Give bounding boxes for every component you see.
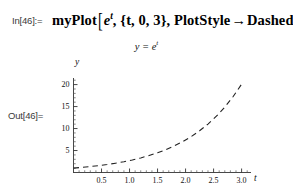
- range-spec: {t, 0, 3}: [120, 12, 166, 28]
- y-tick-label: 15: [62, 102, 70, 111]
- y-tick-label: 5: [66, 146, 70, 155]
- x-tick-label: 1.0: [125, 176, 135, 185]
- input-cell-label[interactable]: In[46]:=: [12, 15, 42, 26]
- x-axis-ticks: 0.51.01.52.02.53.0: [97, 169, 247, 185]
- rule-arrow-icon: →: [230, 12, 247, 28]
- exponential-curve: [74, 84, 242, 168]
- x-tick-label: 0.5: [97, 176, 107, 185]
- y-axis-ticks: 5101520: [62, 80, 78, 155]
- plot-canvas: 5101520 0.51.01.52.02.53.0: [0, 36, 293, 196]
- open-bracket: [: [98, 12, 103, 28]
- arg-separator-2: ,: [166, 12, 173, 28]
- y-tick-label: 20: [62, 80, 70, 89]
- input-expression[interactable]: myPlot[et, {t, 0, 3}, PlotStyle→Dashed]: [52, 11, 293, 29]
- x-tick-label: 1.5: [153, 176, 163, 185]
- x-tick-label: 2.5: [209, 176, 219, 185]
- option-value: Dashed: [247, 12, 293, 28]
- x-tick-label: 3.0: [237, 176, 247, 185]
- x-tick-label: 2.0: [181, 176, 191, 185]
- plot-output-graphic[interactable]: y = et y t 5101520 0.51.01.52.02.53.0: [0, 36, 293, 196]
- function-name: myPlot: [52, 12, 97, 28]
- option-name: PlotStyle: [174, 12, 230, 28]
- y-axis-minor-ticks: [74, 80, 76, 168]
- mathematica-notebook: In[46]:= myPlot[et, {t, 0, 3}, PlotStyle…: [0, 0, 293, 196]
- y-tick-label: 10: [62, 124, 70, 133]
